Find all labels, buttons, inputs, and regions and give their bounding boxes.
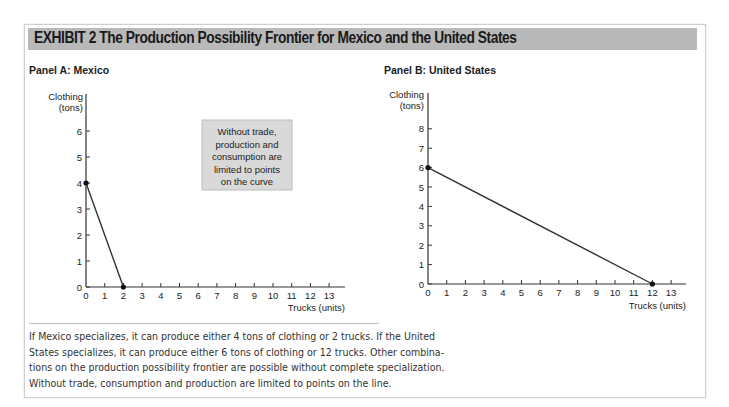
y-tick-label: 4: [419, 201, 424, 212]
x-tick-label: 6: [196, 290, 201, 301]
x-tick-label: 5: [519, 287, 524, 298]
annotation-line: on the curve: [221, 176, 273, 187]
x-tick-label: 7: [214, 290, 219, 301]
x-tick-label: 2: [121, 290, 126, 301]
x-tick-label: 4: [158, 290, 163, 301]
x-tick-label: 2: [463, 287, 468, 298]
x-tick-label: 9: [594, 287, 599, 298]
x-tick-label: 3: [481, 287, 486, 298]
x-tick-label: 8: [233, 290, 238, 301]
x-tick-label: 7: [556, 287, 561, 298]
mexico-x-ticks: 012345678910111213: [83, 283, 334, 301]
us-ylabel-line1: Clothing: [389, 89, 424, 100]
x-tick-label: 5: [177, 290, 182, 301]
caption-line: States specializes, it can produce eithe…: [29, 345, 531, 361]
mexico-ylabel-line1: Clothing: [48, 91, 83, 102]
us-y-ticks: 012345678: [419, 123, 432, 289]
y-tick-label: 4: [77, 178, 82, 189]
mexico-y-ticks: 0123456: [77, 126, 90, 293]
chart-united-states: Clothing (tons) 012345678 01234567891011…: [389, 89, 686, 311]
y-tick-label: 1: [419, 259, 424, 270]
y-tick-label: 6: [77, 126, 82, 137]
x-tick-label: 10: [268, 290, 279, 301]
annotation-line: limited to points: [214, 164, 280, 175]
y-tick-label: 2: [77, 230, 82, 241]
x-tick-label: 6: [538, 287, 543, 298]
x-tick-label: 11: [287, 290, 297, 301]
us-x-ticks: 012345678910111213: [425, 280, 676, 298]
y-tick-label: 7: [419, 143, 424, 154]
mexico-point-trucks: [121, 284, 126, 289]
x-tick-label: 9: [252, 290, 257, 301]
y-tick-label: 2: [419, 240, 424, 251]
x-tick-label: 11: [629, 287, 639, 298]
y-tick-label: 5: [77, 152, 82, 163]
us-point-clothing: [425, 165, 430, 170]
mexico-point-clothing: [83, 180, 88, 185]
annotation-text: Without trade, production and consumptio…: [212, 126, 282, 187]
x-tick-label: 13: [666, 287, 677, 298]
x-tick-label: 8: [575, 287, 580, 298]
y-tick-label: 0: [419, 279, 424, 290]
annotation-line: Without trade,: [217, 126, 276, 137]
x-tick-label: 10: [610, 287, 621, 298]
y-tick-label: 6: [419, 162, 424, 173]
x-tick-label: 1: [444, 287, 449, 298]
x-tick-label: 12: [647, 287, 658, 298]
y-tick-label: 3: [419, 220, 424, 231]
y-tick-label: 1: [77, 256, 82, 267]
mexico-ppf-line: [86, 183, 123, 287]
x-tick-label: 4: [500, 287, 505, 298]
mexico-ylabel-line2: (tons): [59, 102, 83, 113]
x-tick-label: 3: [139, 290, 144, 301]
caption-line: If Mexico specializes, it can produce ei…: [29, 329, 531, 345]
x-tick-label: 13: [324, 290, 335, 301]
us-ylabel-line2: (tons): [400, 100, 424, 111]
caption: If Mexico specializes, it can produce ei…: [29, 329, 531, 391]
caption-line: tions on the production possibility fron…: [29, 360, 531, 376]
caption-line: Without trade, consumption and productio…: [29, 376, 531, 392]
x-tick-label: 12: [305, 290, 316, 301]
y-tick-label: 3: [77, 204, 82, 215]
x-tick-label: 0: [425, 287, 430, 298]
x-tick-label: 0: [83, 290, 88, 301]
annotation-line: production and: [216, 139, 279, 150]
y-tick-label: 0: [77, 282, 82, 293]
y-tick-label: 5: [419, 182, 424, 193]
annotation-line: consumption are: [212, 151, 282, 162]
x-tick-label: 1: [102, 290, 107, 301]
chart-mexico: Clothing (tons) 0123456 0123456789101112…: [48, 91, 345, 313]
us-ppf-line: [428, 168, 652, 284]
y-tick-label: 8: [419, 123, 424, 134]
caption-divider: [29, 323, 379, 324]
us-xlabel: Trucks (units): [629, 300, 686, 311]
mexico-xlabel: Trucks (units): [288, 302, 345, 313]
us-point-trucks: [650, 281, 655, 286]
